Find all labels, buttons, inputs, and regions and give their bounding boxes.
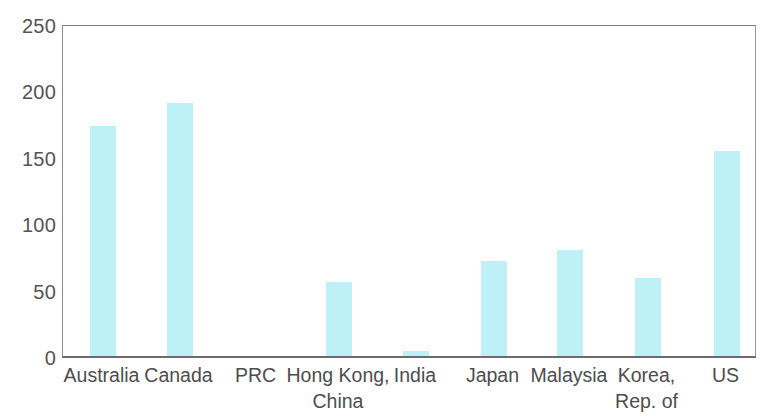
plot-area <box>63 26 755 358</box>
bar-malaysia <box>557 250 583 358</box>
y-tick-label-250: 250 <box>0 16 56 36</box>
x-axis-labels: AustraliaCanadaPRCHong Kong,ChinaIndiaJa… <box>62 362 756 420</box>
bar-canada <box>167 103 193 358</box>
x-label-line: China <box>263 388 413 414</box>
bar-korea-rep-of <box>635 278 661 358</box>
y-axis: 050100150200250 <box>0 0 56 420</box>
bar-chart: 050100150200250 AustraliaCanadaPRCHong K… <box>0 0 763 420</box>
y-tick-label-50: 50 <box>0 282 56 302</box>
x-label-us: US <box>651 362 763 388</box>
x-label-line: Rep. of <box>572 388 722 414</box>
y-tick-label-100: 100 <box>0 215 56 235</box>
bar-japan <box>481 261 507 358</box>
bar-australia <box>90 126 116 358</box>
x-label-line: US <box>712 364 739 386</box>
y-tick-label-150: 150 <box>0 149 56 169</box>
x-axis-baseline <box>62 356 756 358</box>
y-tick-label-200: 200 <box>0 82 56 102</box>
bar-us <box>714 151 740 358</box>
bar-hong-kong-china <box>326 282 352 358</box>
